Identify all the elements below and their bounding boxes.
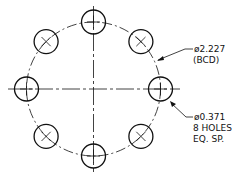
- hole-count-note: 8 HOLES: [193, 123, 232, 133]
- bolt-circle-drawing: ø2.227 (BCD) ø0.371 8 HOLES EQ. SP.: [0, 0, 242, 179]
- hole-top-left: [34, 30, 58, 54]
- hole-top-right: [129, 30, 153, 54]
- bcd-arrowhead: [157, 56, 164, 61]
- hole-spacing-note: EQ. SP.: [193, 134, 224, 144]
- hole-bottom-right: [129, 124, 153, 148]
- hole-bottom-left: [34, 124, 58, 148]
- hole-arrowhead: [170, 101, 176, 107]
- hole-diameter-label: ø0.371: [194, 112, 225, 122]
- bcd-diameter-label: ø2.227: [194, 44, 225, 54]
- bcd-note: (BCD): [193, 55, 219, 65]
